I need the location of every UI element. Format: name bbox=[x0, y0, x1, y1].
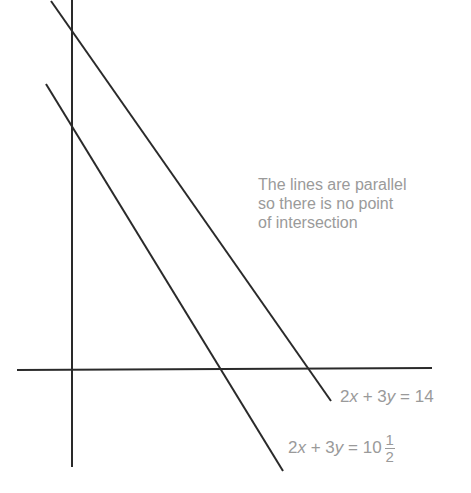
fraction-numerator: 1 bbox=[385, 432, 393, 448]
eq1-var-x: x bbox=[349, 387, 358, 406]
annotation-line-2: so there is no point bbox=[258, 194, 468, 213]
fraction-one-half: 12 bbox=[385, 432, 395, 465]
equation-label-10-half: 2x + 3y = 1012 bbox=[288, 432, 395, 465]
eq1-op: + 3 bbox=[358, 387, 387, 406]
eq2-rhs: = 10 bbox=[343, 438, 381, 457]
fraction-denominator: 2 bbox=[385, 449, 393, 465]
x-axis bbox=[17, 368, 432, 370]
annotation-line-1: The lines are parallel bbox=[258, 175, 468, 194]
equation-label-14: 2x + 3y = 14 bbox=[340, 387, 434, 407]
eq1-rhs: = 14 bbox=[395, 387, 433, 406]
line-2x-3y-10-half bbox=[46, 84, 283, 471]
graph-canvas bbox=[0, 0, 471, 493]
eq2-op: + 3 bbox=[306, 438, 335, 457]
parallel-annotation: The lines are parallel so there is no po… bbox=[258, 175, 468, 232]
annotation-line-3: of intersection bbox=[258, 213, 468, 232]
eq2-var-x: x bbox=[297, 438, 306, 457]
